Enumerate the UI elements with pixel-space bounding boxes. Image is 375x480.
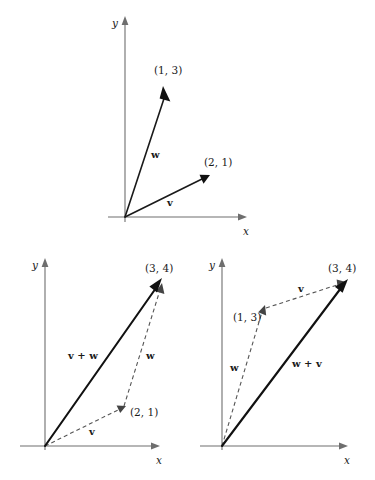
y-axis-bottom-left [42, 258, 49, 450]
vector-label-sum-bottom-right: w + v [291, 358, 323, 369]
y-axis-label-bottom-right: y [208, 259, 216, 271]
vector-label-w-bottom-left: w [145, 350, 155, 361]
point-label-v-top: (2, 1) [204, 156, 232, 168]
vector-sum-bottom-left [45, 278, 162, 446]
vector-label-v-top: v [166, 197, 174, 208]
x-axis-label-bottom-left: x [156, 454, 162, 466]
point-label-w-top: (1, 3) [154, 64, 182, 76]
vector-sum-bottom-right [222, 279, 348, 446]
x-axis-label-top: x [243, 225, 249, 237]
vector-label-w-top: w [150, 149, 160, 160]
panel-bottom-right: y x (3, 4) (1, 3) v w w + v [192, 250, 372, 475]
panel-bottom-left: y x (3, 4) (2, 1) v + w w v [12, 250, 192, 475]
x-axis-label-bottom-right: x [344, 454, 350, 466]
point-label-sum-bottom-left: (3, 4) [145, 262, 173, 274]
y-axis-top [122, 16, 129, 222]
point-label-sum-bottom-right: (3, 4) [328, 262, 356, 274]
vector-label-v-bottom-right: v [297, 283, 305, 294]
vector-label-w-bottom-right: w [229, 362, 239, 373]
y-axis-label-bottom-left: y [31, 259, 39, 271]
vector-w-bottom-right [222, 305, 266, 446]
y-axis-label-top: y [111, 17, 119, 29]
x-axis-bottom-left [20, 443, 160, 450]
vector-v-bottom-right [266, 279, 346, 308]
vector-label-v-bottom-left: v [88, 426, 96, 437]
vector-w-bottom-left [124, 283, 164, 406]
y-axis-bottom-right [219, 258, 226, 450]
point-label-mid-bottom-left: (2, 1) [130, 406, 158, 418]
vector-v-top [125, 175, 210, 217]
vector-figure: y x (1, 3) (2, 1) w v y x [0, 0, 375, 480]
vector-label-sum-bottom-left: v + w [67, 350, 98, 361]
point-label-mid-bottom-right: (1, 3) [233, 311, 261, 323]
panel-top: y x (1, 3) (2, 1) w v [100, 8, 260, 248]
vector-v-bottom-left [45, 405, 126, 446]
